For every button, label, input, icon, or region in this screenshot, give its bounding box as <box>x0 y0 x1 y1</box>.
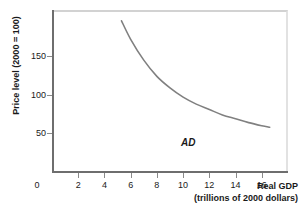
aggregate-demand-chart: 246810121416 50100150 0 Price level (200… <box>0 0 299 217</box>
ad-curve-label: AD <box>181 137 195 148</box>
ad-curve-path <box>121 21 269 127</box>
ad-curve-svg <box>0 0 299 217</box>
